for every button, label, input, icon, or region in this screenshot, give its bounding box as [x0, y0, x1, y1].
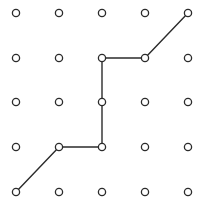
path-edge: [16, 147, 59, 192]
grid-node: [55, 188, 62, 195]
grid-node: [141, 9, 148, 16]
grid-node: [184, 98, 191, 105]
lattice-diagram: [0, 0, 205, 212]
path-node: [141, 54, 148, 61]
path-node: [98, 143, 105, 150]
grid-node: [141, 188, 148, 195]
path-node: [12, 188, 19, 195]
path-node: [98, 98, 105, 105]
grid-node: [141, 98, 148, 105]
grid-node: [98, 9, 105, 16]
grid-node: [141, 143, 148, 150]
path-edge: [145, 13, 188, 58]
grid-node: [184, 54, 191, 61]
grid-node: [12, 98, 19, 105]
grid-node: [55, 98, 62, 105]
path-node: [55, 143, 62, 150]
path-node: [98, 54, 105, 61]
grid-node: [12, 143, 19, 150]
grid-node: [184, 188, 191, 195]
grid-node: [55, 9, 62, 16]
grid-node: [12, 9, 19, 16]
path-node: [184, 9, 191, 16]
grid-node: [12, 54, 19, 61]
grid-node: [184, 143, 191, 150]
grid-node: [98, 188, 105, 195]
grid-node: [55, 54, 62, 61]
